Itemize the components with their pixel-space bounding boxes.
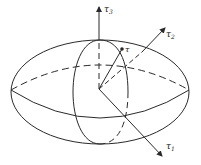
tau1-label: τ1 — [166, 141, 175, 152]
tau2-axis-inner-dashed — [99, 52, 142, 89]
stress-ellipsoid-diagram: τ3 τ2 τ1 τ — [0, 0, 201, 165]
ellipsoid-outline — [11, 40, 189, 144]
tau1-axis — [99, 89, 162, 156]
meridian-back-upper — [100, 40, 128, 92]
meridian-front — [73, 40, 100, 144]
tau-vector-label: τ — [125, 45, 130, 54]
tau3-label: τ3 — [104, 4, 113, 15]
equator-front — [11, 90, 189, 118]
tau-point — [120, 47, 124, 51]
tau2-axis — [142, 28, 165, 52]
equator-back-dashed — [11, 65, 189, 90]
tau2-label: τ2 — [166, 29, 175, 40]
tau-vector — [99, 49, 122, 89]
